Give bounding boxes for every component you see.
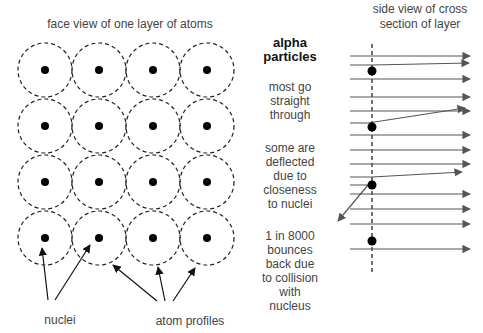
nucleus-dot xyxy=(41,234,49,242)
atom-grid xyxy=(18,43,234,265)
nucleus-dot xyxy=(41,178,49,186)
diagram-canvas xyxy=(0,0,483,333)
nucleus-dot xyxy=(203,178,211,186)
annotation-arrows xyxy=(42,245,195,301)
nucleus-dot xyxy=(149,234,157,242)
nucleus-dot xyxy=(368,237,377,246)
nucleus-dot xyxy=(41,66,49,74)
alpha-particle-paths xyxy=(338,56,470,249)
nucleus-dot xyxy=(41,122,49,130)
nucleus-dot xyxy=(95,66,103,74)
nucleus-dot xyxy=(95,178,103,186)
nucleus-dot xyxy=(203,234,211,242)
side-view xyxy=(338,44,470,272)
nucleus-dot xyxy=(203,66,211,74)
nucleus-dot xyxy=(95,122,103,130)
nucleus-dot xyxy=(149,66,157,74)
nucleus-dot xyxy=(368,123,377,132)
nucleus-dot xyxy=(95,234,103,242)
nucleus-dot xyxy=(368,67,377,76)
nucleus-dot xyxy=(368,181,377,190)
nucleus-dot xyxy=(149,122,157,130)
nucleus-dot xyxy=(203,122,211,130)
nucleus-dot xyxy=(149,178,157,186)
